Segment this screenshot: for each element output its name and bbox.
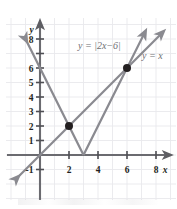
intersection-point-2-2	[65, 122, 73, 130]
x-tick-label-2: 2	[67, 165, 72, 175]
y-tick-label-4: 4	[29, 93, 34, 103]
equation-label-absolute-value: y = |2x−6|	[77, 40, 121, 51]
y-tick-label-2: 2	[29, 122, 34, 132]
y-tick-label-1: 1	[29, 136, 34, 146]
absolute-value-graph-figure: 2 4 6 8 -1 1 2 3 4 5 6 8 y x y = |2x−6| …	[0, 0, 177, 209]
intersection-point-6-6	[123, 64, 131, 72]
y-tick-label-neg1: -1	[26, 165, 34, 175]
x-tick-label-4: 4	[96, 165, 101, 175]
x-axis-label: x	[162, 165, 168, 175]
y-tick-label-6: 6	[29, 64, 34, 74]
x-tick-label-8: 8	[154, 165, 159, 175]
equation-label-identity: y = x	[141, 50, 163, 61]
y-axis-label: y	[28, 25, 34, 35]
plot-background	[0, 0, 177, 209]
y-tick-label-5: 5	[29, 78, 34, 88]
y-tick-label-3: 3	[29, 107, 34, 117]
y-tick-label-8: 8	[29, 35, 34, 45]
coordinate-plane-svg: 2 4 6 8 -1 1 2 3 4 5 6 8 y x y = |2x−6| …	[0, 0, 177, 209]
x-tick-label-6: 6	[125, 165, 130, 175]
